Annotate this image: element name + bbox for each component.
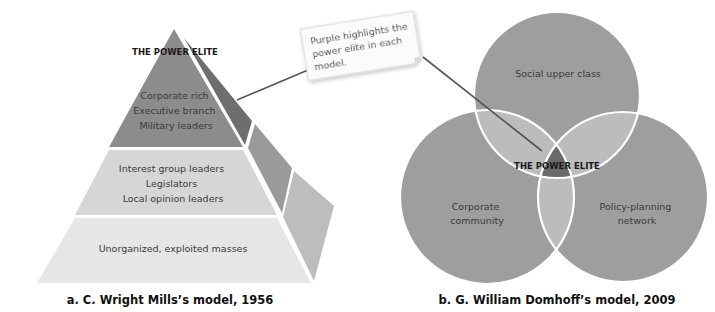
leader-line-pyramid: [237, 70, 308, 100]
venn-label-top: Social upper class: [515, 68, 601, 79]
mills-caption: a. C. Wright Mills’s model, 1956: [67, 293, 274, 307]
power-elite-figure: THE POWER ELITE Corporate rich Executive…: [0, 0, 715, 312]
mills-pyramid: THE POWER ELITE Corporate rich Executive…: [37, 29, 334, 307]
tier-bottom-text: Unorganized, exploited masses: [99, 243, 248, 254]
tier-top-text: Corporate rich Executive branch Military…: [133, 90, 218, 131]
venn-center-label: THE POWER ELITE: [514, 161, 600, 171]
domhoff-caption: b. G. William Domhoff’s model, 2009: [439, 293, 676, 307]
domhoff-venn: Social upper class Corporate community P…: [400, 12, 708, 307]
callout-dog-ear: [414, 57, 421, 64]
pyramid-apex-label: THE POWER ELITE: [132, 47, 218, 57]
